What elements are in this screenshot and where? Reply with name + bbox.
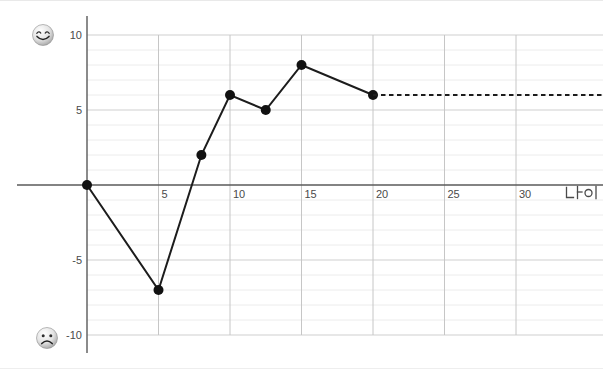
x-axis-label xyxy=(567,187,597,199)
y-tick-label: 10 xyxy=(70,29,82,41)
data-point xyxy=(297,60,307,70)
y-tick-label: 5 xyxy=(76,104,82,116)
x-tick-label: 20 xyxy=(376,188,388,200)
x-tick-label: 10 xyxy=(233,188,245,200)
frowning-face-icon xyxy=(35,326,59,350)
smiling-face-icon xyxy=(31,23,55,47)
data-point xyxy=(196,150,206,160)
data-point xyxy=(261,105,271,115)
data-point xyxy=(82,180,92,190)
x-tick-label: 15 xyxy=(305,188,317,200)
line-chart-canvas: 30252015105-10-5510 xyxy=(0,1,603,368)
data-point xyxy=(154,285,164,295)
data-point xyxy=(225,90,235,100)
y-tick-label: -5 xyxy=(72,254,82,266)
y-tick-label: -10 xyxy=(66,329,82,341)
x-tick-label: 30 xyxy=(519,188,531,200)
x-tick-label: 5 xyxy=(162,188,168,200)
happiness-age-chart: 30252015105-10-5510 xyxy=(0,0,603,369)
x-tick-label: 25 xyxy=(448,188,460,200)
